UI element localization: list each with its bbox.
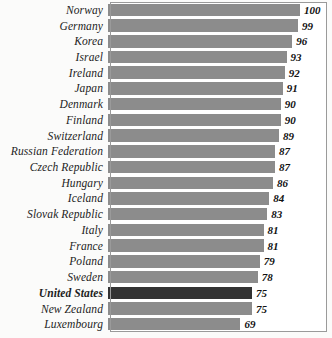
- bar-zone: 87: [108, 143, 332, 159]
- bar-zone: 91: [108, 81, 332, 97]
- bar: [108, 114, 281, 127]
- bar-zone: 92: [108, 65, 332, 81]
- category-label: Sweden: [0, 271, 108, 283]
- bar-value-label: 87: [279, 145, 290, 157]
- bar-value-label: 81: [268, 240, 279, 252]
- bar-value-label: 100: [304, 4, 321, 16]
- category-label: France: [0, 240, 108, 252]
- bar-row: Germany99: [0, 18, 332, 34]
- bar-value-label: 75: [256, 287, 267, 299]
- bar: [108, 35, 292, 48]
- bar-row: France81: [0, 238, 332, 254]
- bar-zone: 90: [108, 96, 332, 112]
- category-label: New Zealand: [0, 303, 108, 315]
- bar-row: Sweden78: [0, 269, 332, 285]
- category-label: Hungary: [0, 177, 108, 189]
- bar: [108, 177, 273, 190]
- bar-value-label: 96: [296, 35, 307, 47]
- bar: [108, 318, 240, 331]
- bar-zone: 93: [108, 49, 332, 65]
- bar-value-label: 79: [264, 255, 275, 267]
- bar-zone: 69: [108, 316, 332, 332]
- bar-row: Finland90: [0, 112, 332, 128]
- bar-row: Switzerland89: [0, 128, 332, 144]
- bar-row: Iceland84: [0, 191, 332, 207]
- bar-zone: 78: [108, 269, 332, 285]
- bar-row: Hungary86: [0, 175, 332, 191]
- bar-zone: 87: [108, 159, 332, 175]
- bar-zone: 79: [108, 254, 332, 270]
- bar: [108, 208, 267, 221]
- bar-row: Denmark90: [0, 96, 332, 112]
- category-label: Poland: [0, 255, 108, 267]
- bar-zone: 90: [108, 112, 332, 128]
- category-label: Slovak Republic: [0, 208, 108, 220]
- bar-value-label: 83: [271, 208, 282, 220]
- bar-row: United States75: [0, 285, 332, 301]
- bar-row: Israel93: [0, 49, 332, 65]
- bar-row: Japan91: [0, 81, 332, 97]
- bar-value-label: 91: [287, 82, 298, 94]
- bar: [108, 224, 264, 237]
- bar-chart: Norway100Germany99Korea96Israel93Ireland…: [0, 0, 332, 338]
- category-label: Russian Federation: [0, 145, 108, 157]
- bar-value-label: 78: [262, 271, 273, 283]
- bar-zone: 84: [108, 191, 332, 207]
- bar-zone: 81: [108, 238, 332, 254]
- bar: [108, 66, 285, 79]
- bar-row: Italy81: [0, 222, 332, 238]
- bar-value-label: 69: [244, 318, 255, 330]
- bar-row: New Zealand75: [0, 301, 332, 317]
- bar-value-label: 93: [291, 51, 302, 63]
- bar: [108, 4, 300, 17]
- category-label: Norway: [0, 4, 108, 16]
- category-label: Finland: [0, 114, 108, 126]
- bar-row: Slovak Republic83: [0, 206, 332, 222]
- bar-row: Norway100: [0, 2, 332, 18]
- bar-zone: 81: [108, 222, 332, 238]
- bar: [108, 287, 252, 300]
- bar-row: Korea96: [0, 33, 332, 49]
- bar-zone: 75: [108, 285, 332, 301]
- bar-value-label: 87: [279, 161, 290, 173]
- bar-value-label: 90: [285, 98, 296, 110]
- category-label: Italy: [0, 224, 108, 236]
- bar-value-label: 81: [268, 224, 279, 236]
- bar: [108, 302, 252, 315]
- bar: [108, 129, 279, 142]
- bar-zone: 99: [108, 18, 332, 34]
- bar: [108, 271, 258, 284]
- bar: [108, 19, 298, 32]
- bar-value-label: 99: [302, 20, 313, 32]
- bar-row: Ireland92: [0, 65, 332, 81]
- category-label: Israel: [0, 51, 108, 63]
- bar-row: Poland79: [0, 254, 332, 270]
- bar-zone: 100: [108, 2, 332, 18]
- bar-value-label: 75: [256, 303, 267, 315]
- category-label: Luxembourg: [0, 318, 108, 330]
- category-label: Korea: [0, 35, 108, 47]
- bar-value-label: 89: [283, 130, 294, 142]
- bar-zone: 83: [108, 206, 332, 222]
- bar: [108, 161, 275, 174]
- bar: [108, 98, 281, 111]
- bar: [108, 192, 269, 205]
- bar-zone: 86: [108, 175, 332, 191]
- bar: [108, 145, 275, 158]
- category-label: Japan: [0, 82, 108, 94]
- bar: [108, 51, 287, 64]
- bar-value-label: 92: [289, 67, 300, 79]
- bar-zone: 89: [108, 128, 332, 144]
- bar-value-label: 86: [277, 177, 288, 189]
- bar-row: Russian Federation87: [0, 143, 332, 159]
- bar: [108, 82, 283, 95]
- bar-row: Luxembourg69: [0, 316, 332, 332]
- bar-rows: Norway100Germany99Korea96Israel93Ireland…: [0, 2, 332, 332]
- category-label: Germany: [0, 20, 108, 32]
- category-label: Iceland: [0, 192, 108, 204]
- bar-value-label: 90: [285, 114, 296, 126]
- bar-zone: 96: [108, 33, 332, 49]
- category-label: Ireland: [0, 67, 108, 79]
- category-label: United States: [0, 287, 108, 299]
- bar-value-label: 84: [273, 192, 284, 204]
